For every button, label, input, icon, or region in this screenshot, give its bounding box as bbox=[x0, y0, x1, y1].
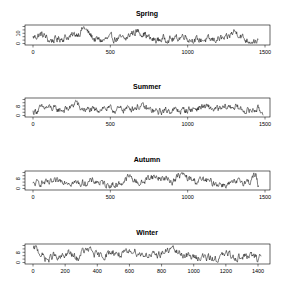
x-tick-label: 600 bbox=[125, 268, 134, 274]
panel-summer: Summer 05001000150008 bbox=[15, 83, 271, 127]
plot-frame bbox=[25, 25, 270, 45]
panel-title: Spring bbox=[136, 10, 158, 18]
series-line bbox=[33, 100, 263, 115]
x-tick-label: 800 bbox=[157, 268, 166, 274]
panel-title: Autumn bbox=[134, 156, 160, 163]
y-tick-label: 0 bbox=[15, 187, 21, 190]
x-tick-label: 0 bbox=[31, 268, 34, 274]
series-line bbox=[33, 173, 259, 189]
seasonal-timeseries-figure: Spring 050010001500010 Summer 0500100015… bbox=[0, 0, 288, 295]
x-tick-label: 1000 bbox=[182, 121, 194, 127]
x-tick-label: 1500 bbox=[259, 49, 271, 55]
y-tick-label: 8 bbox=[15, 105, 21, 108]
y-tick-label: 8 bbox=[15, 251, 21, 254]
x-tick-label: 0 bbox=[31, 121, 34, 127]
x-tick-label: 1400 bbox=[252, 268, 264, 274]
x-tick-label: 0 bbox=[31, 194, 34, 200]
panel-title: Summer bbox=[133, 83, 161, 90]
y-tick-label: 10 bbox=[15, 30, 21, 36]
x-tick-label: 0 bbox=[31, 49, 34, 55]
series-line bbox=[33, 27, 259, 44]
x-tick-label: 500 bbox=[106, 49, 115, 55]
x-tick-label: 500 bbox=[106, 121, 115, 127]
x-tick-label: 500 bbox=[106, 194, 115, 200]
x-tick-label: 1000 bbox=[188, 268, 200, 274]
x-tick-label: 400 bbox=[93, 268, 102, 274]
panel-autumn: Autumn 05001000150008 bbox=[15, 156, 271, 200]
x-tick-label: 1500 bbox=[259, 121, 271, 127]
series-line bbox=[33, 246, 261, 263]
x-tick-label: 1000 bbox=[182, 49, 194, 55]
y-tick-label: 0 bbox=[15, 261, 21, 264]
x-tick-label: 200 bbox=[61, 268, 70, 274]
panel-title: Winter bbox=[136, 229, 158, 236]
y-tick-label: 8 bbox=[15, 177, 21, 180]
y-tick-label: 0 bbox=[15, 114, 21, 117]
x-tick-label: 1000 bbox=[182, 194, 194, 200]
panel-winter: Winter 020040060080010001200140008 bbox=[15, 229, 270, 274]
panel-spring: Spring 050010001500010 bbox=[15, 10, 271, 55]
y-tick-label: 0 bbox=[15, 42, 21, 45]
x-tick-label: 1500 bbox=[259, 194, 271, 200]
plot-frame bbox=[25, 244, 270, 264]
x-tick-label: 1200 bbox=[220, 268, 232, 274]
